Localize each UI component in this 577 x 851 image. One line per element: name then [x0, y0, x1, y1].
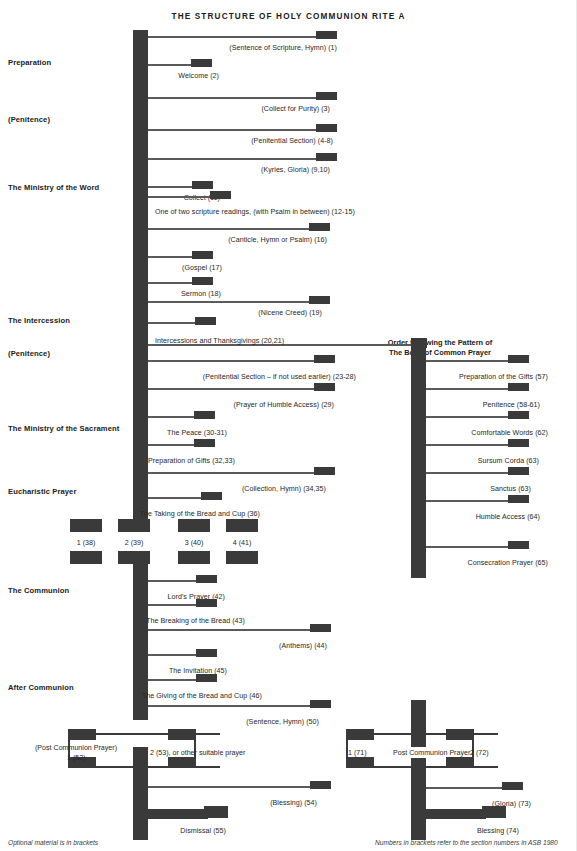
branch-rule — [148, 629, 312, 631]
branch-label-nicene-creed: (Nicene Creed) (19) — [258, 309, 322, 317]
bcp-branch-cap — [508, 383, 529, 391]
bcp-branch-rule — [426, 416, 512, 418]
bcp-label-comfortable-words: Comfortable Words (62) — [471, 429, 548, 437]
bcp-branch-cap — [508, 355, 529, 363]
page-title: THE STRUCTURE OF HOLY COMMUNION RITE A — [0, 12, 577, 21]
branch-label-dismissal: Dismissal (55) — [180, 827, 226, 835]
bcp-connector-cap — [411, 338, 427, 348]
eucharistic-option-label-3: 3 (40) — [185, 539, 204, 547]
eucharistic-block-lower-3 — [178, 551, 210, 564]
section-label-penitence-1: (Penitence) — [8, 115, 50, 124]
bcp-branch-rule — [426, 388, 512, 390]
branch-rule — [148, 196, 212, 198]
branch-cap — [314, 467, 335, 475]
bcp-branch-cap — [508, 411, 529, 419]
eucharistic-block-upper-2 — [118, 519, 150, 532]
post-communion-right-right-label: 2 (72) — [470, 749, 489, 757]
branch-cap — [316, 153, 337, 161]
branch-label-preparation-of-gifts: Preparation of Gifts (32,33) — [148, 457, 235, 465]
branch-rule — [148, 64, 193, 66]
eucharistic-block-lower-1 — [70, 551, 102, 564]
post-communion-left-alt-label: 2 (53), or other suitable prayer — [150, 749, 245, 757]
section-label-eucharistic-prayer: Eucharistic Prayer — [8, 487, 77, 496]
branch-label-collection-hymn: (Collection, Hymn) (34,35) — [242, 485, 326, 493]
bcp-label-preparation-of-the-gifts: Preparation of the Gifts (57) — [459, 373, 548, 381]
branch-label-penitential-section-later: (Penitential Section – if not used earli… — [203, 373, 356, 381]
bcp-label-blessing-74: Blessing (74) — [477, 827, 519, 835]
branch-cap — [192, 251, 213, 259]
branch-label-sentence-of-scripture: (Sentence of Scripture, Hymn) (1) — [229, 44, 337, 52]
branch-label-collect-for-purity: (Collect for Purity) (3) — [261, 105, 330, 113]
branch-cap — [316, 92, 337, 100]
bcp-branch-rule — [426, 546, 512, 548]
branch-cap — [201, 492, 222, 500]
bcp-label-sursum-corda: Sursum Corda (63) — [478, 457, 539, 465]
branch-cap — [196, 674, 217, 682]
branch-rule — [148, 705, 312, 707]
branch-rule — [148, 580, 198, 582]
branch-rule — [148, 604, 198, 606]
branch-cap — [191, 59, 212, 67]
bcp-branch-cap — [502, 782, 523, 790]
post-communion-right-top-rule — [360, 733, 498, 735]
branch-label-scripture-readings: One of two scripture readings, (with Psa… — [155, 208, 355, 216]
bcp-branch-rule — [426, 500, 512, 502]
branch-rule — [148, 786, 312, 788]
branch-cap — [309, 223, 330, 231]
branch-rule — [148, 654, 198, 656]
eucharistic-option-label-1: 1 (38) — [77, 539, 96, 547]
branch-rule — [148, 36, 318, 38]
footnote-right: Numbers in brackets refer to the section… — [375, 839, 558, 846]
branch-cap — [204, 806, 228, 818]
section-label-preparation: Preparation — [8, 58, 51, 67]
bcp-branch-cap — [508, 467, 529, 475]
branch-rule — [148, 322, 197, 324]
bcp-heading-line2: The Book of Common Prayer — [389, 348, 491, 358]
post-communion-left-cap-tl — [68, 729, 96, 740]
eucharistic-option-label-2: 2 (39) — [125, 539, 144, 547]
branch-cap — [195, 317, 216, 325]
branch-cap — [314, 355, 335, 363]
branch-rule-dismissal — [148, 809, 208, 819]
branch-cap — [309, 296, 330, 304]
branch-rule — [148, 186, 194, 188]
bcp-label-sanctus: Sanctus (63) — [490, 485, 531, 493]
bcp-branch-rule — [426, 360, 512, 362]
bcp-branch-rule — [426, 472, 512, 474]
branch-label-sentence-hymn-50: (Sentence, Hymn) (50) — [246, 718, 319, 726]
branch-label-anthems: (Anthems) (44) — [279, 642, 327, 650]
branch-rule — [148, 301, 311, 303]
eucharistic-block-upper-1 — [70, 519, 102, 532]
branch-rule — [148, 228, 311, 230]
branch-rule — [148, 158, 318, 160]
branch-cap — [192, 181, 213, 189]
branch-rule — [148, 97, 318, 99]
section-label-after-communion: After Communion — [8, 683, 74, 692]
branch-label-the-peace: The Peace (30-31) — [167, 429, 227, 437]
branch-label-intercessions-thanksgivings: Intercessions and Thanksgivings (20,21) — [155, 337, 284, 345]
bcp-spine-upper — [411, 342, 426, 578]
post-communion-left-caption-1: (Post Communion Prayer) — [35, 744, 117, 752]
branch-label-gospel: (Gospel (17) — [182, 264, 222, 272]
section-label-ministry-of-the-word: The Ministry of the Word — [8, 183, 99, 192]
branch-label-blessing-54: (Blessing) (54) — [270, 799, 317, 807]
bcp-branch-cap — [508, 541, 529, 549]
bcp-spine-lower — [411, 758, 426, 840]
branch-rule — [148, 472, 316, 474]
bcp-heading-line1: Order following the Pattern of — [388, 338, 492, 348]
branch-rule — [148, 282, 194, 284]
eucharistic-option-label-4: 4 (41) — [233, 539, 252, 547]
branch-rule — [148, 360, 316, 362]
branch-cap — [314, 383, 335, 391]
post-communion-left-caption-2: 1 (52) — [67, 754, 86, 762]
branch-cap — [310, 624, 331, 632]
bcp-branch-cap — [508, 495, 529, 503]
eucharistic-block-upper-3 — [178, 519, 210, 532]
post-communion-left-top-rule — [82, 733, 220, 735]
branch-label-penitential-section: (Penitential Section) (4-8) — [251, 137, 333, 145]
diagram-page: THE STRUCTURE OF HOLY COMMUNION RITE A P… — [0, 0, 577, 851]
eucharistic-block-lower-4 — [226, 551, 258, 564]
section-label-ministry-of-sacrament: The Ministry of the Sacrament — [8, 424, 119, 433]
post-communion-right-cap-tr — [446, 729, 474, 740]
branch-rule — [148, 129, 318, 131]
